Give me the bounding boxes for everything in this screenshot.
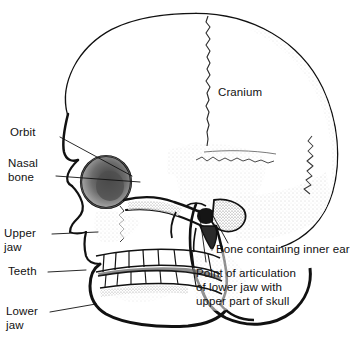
- label-articulation-line3: upper part of skull: [196, 295, 289, 309]
- label-orbit: Orbit: [10, 126, 35, 140]
- label-lower-jaw-line2: jaw: [6, 319, 24, 333]
- label-cranium: Cranium: [218, 86, 262, 100]
- skull-illustration: [0, 0, 359, 349]
- label-articulation-line2: of lower jaw with: [196, 281, 282, 295]
- label-teeth: Teeth: [8, 265, 37, 279]
- leader-teeth: [48, 270, 86, 272]
- label-upper-jaw-line2: jaw: [4, 241, 22, 255]
- label-upper-jaw-line1: Upper: [4, 227, 36, 241]
- label-lower-jaw-line1: Lower: [6, 305, 38, 319]
- leader-lower-jaw: [50, 304, 96, 312]
- label-nasal-bone-line1: Nasal: [8, 157, 38, 171]
- skull-diagram-figure: Cranium Orbit Nasal bone Upper jaw Teeth…: [0, 0, 359, 349]
- label-nasal-bone-line2: bone: [8, 171, 34, 185]
- label-articulation-line1: Point of articulation: [196, 267, 296, 281]
- label-inner-ear: Bone containing inner ear: [216, 243, 350, 257]
